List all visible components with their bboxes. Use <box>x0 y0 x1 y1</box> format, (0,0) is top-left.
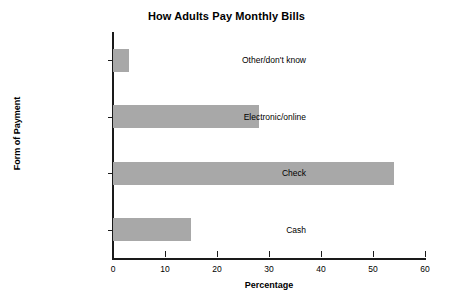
bar-chart: How Adults Pay Monthly Bills 01020304050… <box>0 0 453 301</box>
x-axis-tick-label: 30 <box>249 264 289 274</box>
plot-area: 0102030405060 CashCheckElectronic/online… <box>113 32 425 258</box>
y-axis-category-label: Electronic/online <box>196 112 306 122</box>
y-axis-category-label: Cash <box>196 225 306 235</box>
x-axis-title: Percentage <box>113 280 425 291</box>
x-axis-tick <box>217 251 218 257</box>
x-axis-tick <box>321 251 322 257</box>
x-axis-tick <box>113 251 114 257</box>
x-axis-tick <box>425 251 426 257</box>
x-axis-line <box>112 258 426 260</box>
x-axis-tick-label: 0 <box>93 264 133 274</box>
chart-title: How Adults Pay Monthly Bills <box>0 10 453 23</box>
y-axis-title: Form of Payment <box>12 79 23 189</box>
y-axis-category-label: Check <box>196 168 306 178</box>
bar <box>113 49 129 72</box>
x-axis-tick-label: 40 <box>301 264 341 274</box>
x-axis-tick-label: 50 <box>353 264 393 274</box>
x-axis-tick <box>373 251 374 257</box>
x-axis-tick-label: 10 <box>145 264 185 274</box>
x-axis-tick <box>165 251 166 257</box>
bar <box>113 218 191 241</box>
y-axis-category-label: Other/don't know <box>196 55 306 65</box>
x-axis-tick <box>269 251 270 257</box>
x-axis-tick-label: 20 <box>197 264 237 274</box>
x-axis-tick-label: 60 <box>405 264 445 274</box>
